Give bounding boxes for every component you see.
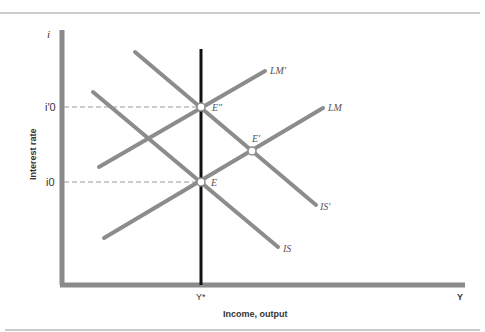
label-is: IS <box>282 243 291 254</box>
label-e-prime: E′ <box>251 133 261 144</box>
islm-diagram: LM′ LM IS′ IS E″ E′ E i i′0 i0 Interest … <box>0 0 485 332</box>
tick-i0: i0 <box>46 176 55 188</box>
point-e-prime <box>248 147 256 155</box>
y-axis-symbol: i <box>47 28 50 40</box>
point-e-double-prime <box>197 103 205 111</box>
label-lm-prime: LM′ <box>269 65 287 76</box>
y-axis-title: Interest rate <box>28 128 38 180</box>
x-axis-title: Income, output <box>223 309 288 319</box>
label-lm: LM <box>327 102 343 113</box>
label-e-double-prime: E″ <box>211 102 223 113</box>
tick-i0-prime: i′0 <box>45 101 56 113</box>
point-e <box>197 178 205 186</box>
label-is-prime: IS′ <box>319 201 331 212</box>
x-axis-symbol: Y <box>457 292 463 302</box>
label-e: E <box>210 177 217 188</box>
tick-y-star: Y* <box>196 292 206 302</box>
